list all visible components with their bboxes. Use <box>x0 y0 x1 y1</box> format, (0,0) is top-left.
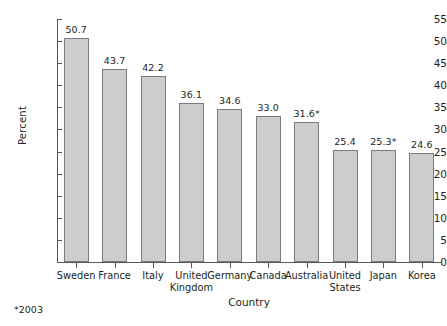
bar-chart: Percent 0510152025303540455055 50.743.74… <box>0 0 447 326</box>
x-tick <box>383 263 384 268</box>
x-tick <box>191 263 192 268</box>
x-tick <box>268 263 269 268</box>
bar[interactable] <box>217 109 242 262</box>
bar-group[interactable]: 31.6* <box>294 19 319 262</box>
x-tick-label: Japan <box>370 270 397 282</box>
bar-group[interactable]: 36.1 <box>179 19 204 262</box>
bar[interactable] <box>409 153 434 262</box>
bar[interactable] <box>141 76 166 262</box>
footnote: *2003 <box>14 304 43 315</box>
bar[interactable] <box>256 116 281 262</box>
bar-group[interactable]: 42.2 <box>141 19 166 262</box>
x-tick <box>307 263 308 268</box>
bar-value-label: 33.0 <box>257 102 279 113</box>
bar-value-label: 25.4 <box>334 136 356 147</box>
bar[interactable] <box>333 150 358 262</box>
x-tick <box>345 263 346 268</box>
x-tick <box>153 263 154 268</box>
bar-group[interactable]: 33.0 <box>256 19 281 262</box>
x-tick <box>115 263 116 268</box>
x-tick-label: Germany <box>207 270 252 282</box>
x-tick-label: Korea <box>408 270 436 282</box>
plot-area: 50.743.742.236.134.633.031.6*25.425.3*24… <box>57 19 441 262</box>
bar[interactable] <box>294 122 319 262</box>
bar-value-label: 50.7 <box>65 24 87 35</box>
bar-value-label: 43.7 <box>104 55 126 66</box>
x-tick-label: Australia <box>285 270 328 282</box>
bar-value-label: 34.6 <box>219 95 241 106</box>
x-axis-title: Country <box>57 296 441 308</box>
x-tick-label: Sweden <box>57 270 96 282</box>
x-tick <box>422 263 423 268</box>
bar[interactable] <box>102 69 127 262</box>
bar[interactable] <box>64 38 89 262</box>
x-tick-label: Canada <box>250 270 287 282</box>
bar-group[interactable]: 25.3* <box>371 19 396 262</box>
bar-value-label: 42.2 <box>142 62 164 73</box>
x-tick-label: France <box>98 270 131 282</box>
x-tick-label: UnitedStates <box>329 270 361 293</box>
bar-group[interactable]: 43.7 <box>102 19 127 262</box>
bar[interactable] <box>179 103 204 262</box>
bar-value-label: 25.3* <box>370 136 396 147</box>
y-axis-title: Percent <box>17 86 28 166</box>
bar-group[interactable]: 34.6 <box>217 19 242 262</box>
bar-value-label: 36.1 <box>181 89 203 100</box>
bar-value-label: 31.6* <box>293 108 319 119</box>
bar-group[interactable]: 25.4 <box>333 19 358 262</box>
x-tick-label: Italy <box>142 270 163 282</box>
x-tick <box>230 263 231 268</box>
bar-group[interactable]: 24.6 <box>409 19 434 262</box>
bar-group[interactable]: 50.7 <box>64 19 89 262</box>
bar-value-label: 24.6 <box>411 139 433 150</box>
x-tick <box>76 263 77 268</box>
bar[interactable] <box>371 150 396 262</box>
